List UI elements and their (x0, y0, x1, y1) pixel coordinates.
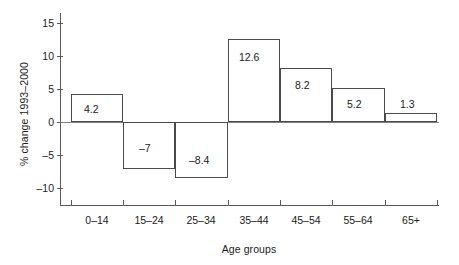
bar-45-54 (280, 68, 332, 122)
y-axis-tick-label: 15 (20, 18, 54, 29)
bar-value-label: –8.4 (189, 155, 209, 166)
x-axis-title: Age groups (60, 243, 438, 255)
x-axis-tick-mark (123, 200, 124, 206)
bar-chart: % change 1993–2000 15 10 5 0 –5 –10 4.2 … (0, 0, 459, 265)
x-axis-tick-mark (385, 200, 386, 206)
x-axis-tick-label: 65+ (385, 214, 437, 226)
x-axis-tick-label: 45–54 (280, 214, 332, 226)
x-axis-tick-label: 15–24 (123, 214, 175, 226)
bar-25-34 (175, 122, 228, 178)
x-axis-tick-mark (175, 200, 176, 206)
y-axis-tick-label: 5 (20, 84, 54, 95)
bar-value-label: 1.3 (400, 99, 415, 110)
bar-value-label: 8.2 (295, 80, 310, 91)
bar-value-label: –7 (139, 143, 151, 154)
x-axis-tick-mark (437, 200, 438, 206)
bar-value-label: 12.6 (239, 52, 259, 63)
x-axis-line (60, 205, 439, 206)
y-axis-line (60, 13, 61, 206)
x-axis-tick-mark (332, 200, 333, 206)
y-axis-tick-label: –5 (20, 150, 54, 161)
x-axis-tick-mark (71, 200, 72, 206)
zero-baseline (60, 122, 439, 123)
bar-value-label: 4.2 (84, 104, 99, 115)
bar-65plus (385, 113, 437, 122)
y-axis-tick-label: 0 (20, 117, 54, 128)
x-axis-tick-label: 55–64 (332, 214, 384, 226)
y-axis-tick-label: –10 (20, 183, 54, 194)
x-axis-tick-label: 25–34 (175, 214, 227, 226)
x-axis-tick-label: 0–14 (71, 214, 123, 226)
x-axis-tick-label: 35–44 (228, 214, 280, 226)
bar-value-label: 5.2 (347, 99, 362, 110)
x-axis-tick-mark (228, 200, 229, 206)
y-axis-tick-label: 10 (20, 51, 54, 62)
x-axis-tick-mark (280, 200, 281, 206)
